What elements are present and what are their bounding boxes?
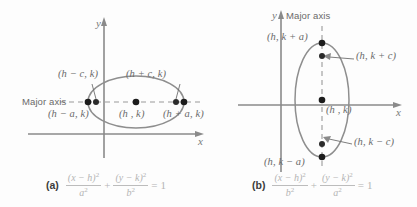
- panel-a-term2-denominator: b2: [125, 186, 138, 199]
- vertex-right-label: (h + a, k): [163, 108, 204, 119]
- y-axis-arrowhead: [101, 17, 107, 26]
- x-axis-label: x: [198, 135, 203, 147]
- focus-bottom-label: (h, k − c): [354, 136, 394, 147]
- panel-b-rhs: 1: [367, 179, 373, 191]
- panel-b-term1: (x − h)2 b2: [272, 172, 307, 199]
- center-label: (h , k): [119, 108, 144, 119]
- panel-a-horizontal-ellipse: y x Major axis (h − c, k) (h + c, k) (h …: [0, 0, 210, 207]
- focus-top-point: [319, 53, 325, 59]
- panel-a-rhs: 1: [160, 179, 166, 191]
- vertex-left-point: [85, 99, 92, 106]
- panel-b-term2: (y − k)2 a2: [320, 172, 355, 199]
- panel-b-term2-numerator: (y − k)2: [320, 172, 355, 185]
- vertex-left-label: (h − a, k): [48, 108, 89, 119]
- vertex-bottom-label: (h, k − a): [264, 156, 305, 167]
- panel-a-tag: (a): [46, 179, 59, 191]
- panel-a-term2-numerator: (y − k)2: [113, 172, 148, 185]
- x-axis-label: x: [396, 106, 401, 118]
- center-label: (h , k): [326, 104, 351, 115]
- center-point: [319, 97, 326, 104]
- y-axis-label: y: [96, 17, 101, 29]
- panel-a-equation-expression: (x − h)2 a2 + (y − k)2 b2 = 1: [66, 172, 166, 199]
- focus-top-pointer: [329, 57, 354, 59]
- center-point: [133, 99, 140, 106]
- panel-a-term1: (x − h)2 a2: [66, 172, 101, 199]
- panel-b-tag: (b): [252, 179, 265, 191]
- vertex-top-label: (h, k + a): [267, 31, 308, 42]
- panel-b-term2-denominator: a2: [331, 186, 344, 199]
- panel-b-vertical-ellipse: y x Major axis (h, k + a) (h, k + c) (h …: [210, 0, 417, 207]
- focus-right-point: [173, 99, 179, 105]
- focus-bottom-point: [319, 141, 325, 147]
- focus-left-label: (h − c, k): [58, 68, 98, 79]
- panel-b-equation-expression: (x − h)2 b2 + (y − k)2 a2 = 1: [272, 172, 372, 199]
- ellipse-standard-forms-figure: y x Major axis (h − c, k) (h + c, k) (h …: [0, 0, 417, 207]
- panel-b-term1-denominator: b2: [284, 186, 297, 199]
- y-axis-label: y: [272, 9, 277, 21]
- y-axis-arrowhead: [278, 10, 284, 19]
- vertex-top-point: [319, 40, 326, 47]
- plus-operator: +: [311, 179, 317, 191]
- focus-bottom-pointer: [329, 139, 352, 144]
- major-axis-label: Major axis: [286, 10, 330, 21]
- focus-left-point: [93, 99, 99, 105]
- panel-b-term1-numerator: (x − h)2: [272, 172, 307, 185]
- equals-operator: =: [151, 179, 157, 191]
- vertex-bottom-point: [319, 154, 326, 161]
- panel-a-equation: (a) (x − h)2 a2 + (y − k)2 b2 = 1: [46, 172, 166, 199]
- panel-a-term2: (y − k)2 b2: [113, 172, 148, 199]
- panel-a-term1-denominator: a2: [77, 186, 90, 199]
- panel-a-term1-numerator: (x − h)2: [66, 172, 101, 185]
- focus-right-label: (h + c, k): [126, 68, 166, 79]
- focus-top-label: (h, k + c): [356, 50, 396, 61]
- major-axis-label: Major axis: [22, 96, 66, 107]
- vertex-right-point: [181, 99, 188, 106]
- plus-operator: +: [104, 179, 110, 191]
- equals-operator: =: [358, 179, 364, 191]
- panel-b-equation: (b) (x − h)2 b2 + (y − k)2 a2 = 1: [252, 172, 373, 199]
